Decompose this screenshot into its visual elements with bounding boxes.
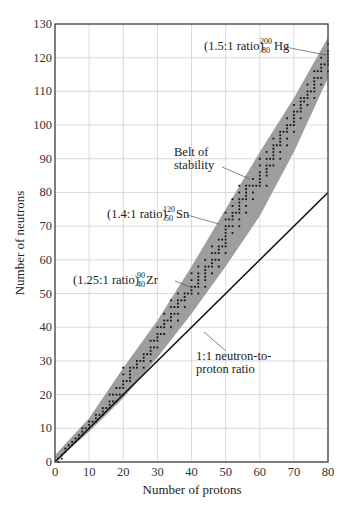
nuclide-point: [191, 289, 193, 291]
nuclide-point: [126, 380, 128, 382]
nuclide-point: [170, 299, 172, 301]
nuclide-point: [197, 276, 199, 278]
nuclide-point: [170, 306, 172, 308]
chart-canvas: 01020304050607080 0102030405060708090100…: [0, 0, 349, 508]
nuclide-point: [269, 158, 271, 160]
nuclide-point: [174, 313, 176, 315]
nuclide-point: [307, 84, 309, 86]
nuclide-point: [215, 252, 217, 254]
nuclide-point: [266, 175, 268, 177]
nuclide-point: [252, 192, 254, 194]
y-tick-label: 20: [40, 388, 53, 402]
y-tick-label: 40: [40, 320, 53, 334]
nuclide-point: [150, 347, 152, 349]
nuclide-point: [211, 252, 213, 254]
nuclide-point: [218, 259, 220, 261]
nuclide-point: [293, 131, 295, 133]
nuclide-point: [197, 266, 199, 268]
nuclide-point: [129, 374, 131, 376]
nuclide-point: [286, 138, 288, 140]
nuclide-point: [204, 279, 206, 281]
nuclide-point: [259, 165, 261, 167]
x-axis-ticks: 01020304050607080: [52, 465, 334, 479]
nuclide-point: [307, 104, 309, 106]
ratio-label-line1: 1:1 neutron-to-: [196, 349, 271, 363]
nuclide-point: [259, 178, 261, 180]
nuclide-point: [293, 104, 295, 106]
nuclide-point: [109, 404, 111, 406]
nuclide-point: [191, 272, 193, 274]
nuclide-point: [273, 155, 275, 157]
nuclide-point: [211, 246, 213, 248]
nuclide-point: [228, 219, 230, 221]
annotation-sn: (1.4:1 ratio) 120 50 Sn: [107, 205, 190, 223]
nuclide-point: [143, 360, 145, 362]
nuclide-point: [177, 313, 179, 315]
nuclide-point: [235, 212, 237, 214]
nuclide-point: [64, 448, 66, 450]
nuclide-point: [204, 276, 206, 278]
nuclide-point: [218, 239, 220, 241]
nuclide-point: [208, 266, 210, 268]
x-tick-label: 70: [288, 465, 301, 479]
nuclide-point: [153, 340, 155, 342]
nuclide-point: [266, 185, 268, 187]
nuclide-point: [238, 198, 240, 200]
nuclide-point: [238, 219, 240, 221]
sn-ratio-text: (1.4:1 ratio): [107, 207, 167, 221]
nuclide-point: [252, 198, 254, 200]
nuclide-point: [88, 424, 90, 426]
nuclide-point: [245, 185, 247, 187]
y-tick-label: 10: [40, 421, 53, 435]
nuclide-point: [116, 387, 118, 389]
nuclide-point: [105, 407, 107, 409]
nuclide-point: [303, 97, 305, 99]
x-tick-label: 40: [185, 465, 198, 479]
nuclide-point: [238, 225, 240, 227]
y-axis-ticks: 0102030405060708090100110120130: [33, 17, 52, 469]
nuclide-point: [279, 158, 281, 160]
nuclide-point: [187, 293, 189, 295]
nuclide-point: [218, 266, 220, 268]
nuclide-point: [238, 205, 240, 207]
nuclide-point: [269, 165, 271, 167]
nuclide-point: [283, 131, 285, 133]
nuclide-point: [238, 208, 240, 210]
nuclide-point: [191, 286, 193, 288]
nuclide-point: [92, 421, 94, 423]
nuclide-point: [122, 367, 124, 369]
sn-symbol: Sn: [176, 207, 190, 221]
nuclide-point: [225, 252, 227, 254]
nuclide-point: [157, 347, 159, 349]
nuclide-point: [150, 340, 152, 342]
nuclide-point: [102, 411, 104, 413]
nuclide-point: [85, 427, 87, 429]
nuclide-point: [197, 279, 199, 281]
nuclide-point: [88, 421, 90, 423]
nuclide-point: [133, 367, 135, 369]
nuclide-point: [225, 232, 227, 234]
nuclide-point: [286, 124, 288, 126]
nuclide-point: [279, 138, 281, 140]
nuclide-point: [225, 235, 227, 237]
nuclide-point: [225, 229, 227, 231]
belt-leader: [222, 167, 250, 179]
nuclide-point: [313, 77, 315, 79]
x-tick-label: 20: [117, 465, 130, 479]
nuclide-point: [273, 151, 275, 153]
nuclide-point: [320, 77, 322, 79]
y-tick-label: 120: [33, 51, 52, 65]
belt-label-line2: stability: [174, 158, 215, 172]
nuclide-point: [184, 306, 186, 308]
nuclide-point: [242, 198, 244, 200]
nuclide-point: [232, 215, 234, 217]
nuclide-point: [143, 367, 145, 369]
nuclide-point: [225, 225, 227, 227]
hg-ratio-text: (1.5:1 ratio): [204, 39, 264, 53]
nuclide-point: [303, 101, 305, 103]
nuclide-point: [225, 242, 227, 244]
nuclide-point: [150, 360, 152, 362]
nuclide-point: [238, 202, 240, 204]
nuclide-point: [81, 431, 83, 433]
nuclide-point: [266, 158, 268, 160]
